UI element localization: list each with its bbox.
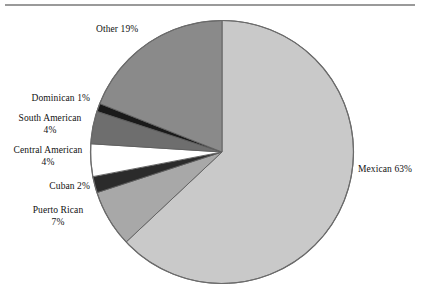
pie-label-south-american-pct: 4%	[8, 125, 92, 137]
pie-label-central-american-name: Central American	[14, 145, 83, 155]
pie-label-cuban: Cuban 2%	[34, 181, 90, 193]
pie-label-central-american: Central American 4%	[4, 145, 92, 168]
pie-label-mexican: Mexican 63%	[358, 164, 412, 176]
chart-area: Mexican 63% Other 19% Dominican 1% South…	[0, 0, 423, 294]
pie-label-south-american: South American 4%	[8, 113, 92, 136]
pie-chart-figure: Mexican 63% Other 19% Dominican 1% South…	[0, 0, 423, 294]
pie-label-puerto-rican-name: Puerto Rican	[33, 205, 84, 215]
pie-label-dominican: Dominican 1%	[28, 93, 90, 105]
pie-label-puerto-rican-pct: 7%	[22, 217, 94, 229]
pie-label-central-american-pct: 4%	[4, 157, 92, 169]
pie-label-puerto-rican: Puerto Rican 7%	[22, 205, 94, 228]
pie-label-south-american-name: South American	[19, 113, 82, 123]
pie-slices-group	[91, 21, 354, 284]
pie-label-other: Other 19%	[96, 24, 138, 36]
